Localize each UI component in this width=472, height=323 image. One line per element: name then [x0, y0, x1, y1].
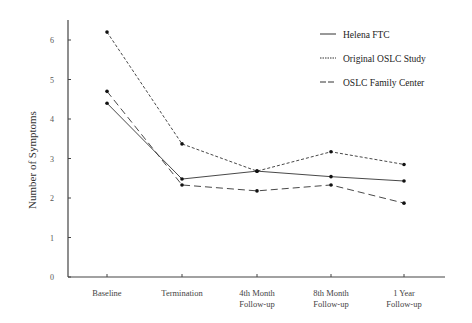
data-point [180, 177, 184, 181]
legend: Helena FTCOriginal OSLC StudyOSLC Family… [320, 30, 426, 88]
x-tick-label: 1 Year [393, 288, 415, 298]
legend-label: Helena FTC [343, 30, 390, 40]
x-tick-label: Termination [161, 288, 203, 298]
y-axis-label: Number of Symptoms [26, 111, 38, 209]
legend-label: Original OSLC Study [343, 54, 426, 64]
x-tick-label: Follow-up [239, 299, 274, 309]
data-point [402, 201, 406, 205]
data-point [180, 183, 184, 187]
x-tick-label: Baseline [92, 288, 121, 298]
y-tick-label: 6 [50, 36, 54, 45]
data-point [180, 142, 184, 146]
legend-label: OSLC Family Center [343, 78, 425, 88]
y-tick-label: 4 [50, 115, 54, 124]
y-tick-label: 0 [50, 273, 54, 282]
data-point [329, 175, 333, 179]
y-tick-label: 1 [50, 234, 54, 243]
series-line-helena-ftc [107, 103, 404, 181]
data-point [329, 183, 333, 187]
data-point [105, 30, 109, 34]
series-line-oslc-family-center [107, 91, 404, 203]
data-point [255, 169, 259, 173]
line-chart: 0123456 BaselineTermination4th MonthFoll… [0, 0, 472, 323]
data-point [255, 189, 259, 193]
y-tick-label: 3 [50, 155, 54, 164]
x-tick-label: 4th Month [239, 288, 275, 298]
x-tick-label: Follow-up [386, 299, 421, 309]
y-tick-label: 2 [50, 194, 54, 203]
data-point [105, 101, 109, 105]
data-point [105, 90, 109, 94]
x-tick-label: 8th Month [313, 288, 349, 298]
data-point [402, 163, 406, 167]
data-point [329, 150, 333, 154]
x-tick-label: Follow-up [313, 299, 348, 309]
y-tick-label: 5 [50, 76, 54, 85]
data-point [402, 179, 406, 183]
x-axis-ticks: BaselineTermination4th MonthFollow-up8th… [92, 274, 421, 309]
